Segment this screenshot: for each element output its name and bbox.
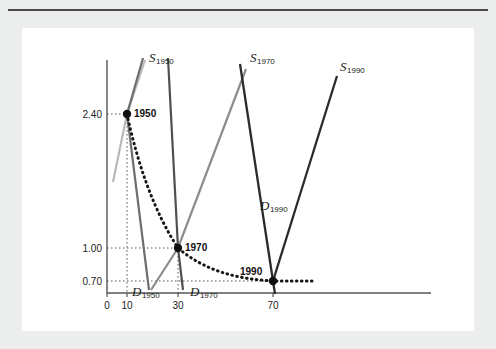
equilibrium-marker-1950 [123,110,131,118]
curve-label-subscript: 1950 [142,291,160,300]
curve-d-1950 [127,58,149,290]
equilibrium-label-1970: 1970 [185,242,207,253]
curve-s-1970 [151,69,246,290]
curve-label-letter: S [250,50,257,65]
equilibrium-marker-1990 [269,277,277,285]
y-tick-label-0.70: 0.70 [70,276,102,287]
y-tick-label-1.00: 1.00 [70,243,102,254]
curve-label-subscript: 1970 [200,291,218,300]
curve-d-1990 [240,64,275,294]
curve-label-d-1990: D1990 [260,198,287,214]
curve-label-subscript: 1970 [257,57,275,66]
equilibrium-marker-1970 [174,244,182,252]
curve-d-1970 [168,58,183,290]
curve-label-d-1950: D1950 [132,284,159,300]
curve-label-letter: D [260,198,269,213]
curve-label-s-1950: S1950 [149,50,173,66]
y-tick-label-2.40: 2.40 [70,109,102,120]
curve-label-subscript: 1990 [270,205,288,214]
curve-label-d-1970: D1970 [190,284,217,300]
x-tick-label-30: 30 [172,300,183,311]
x-tick-label-10: 10 [121,300,132,311]
x-tick-label-70: 70 [267,300,278,311]
curve-s-1990 [273,76,337,281]
curve-label-subscript: 1950 [156,57,174,66]
curve-label-letter: D [132,284,141,299]
x-tick-label-0: 0 [104,300,110,311]
equilibrium-label-1950: 1950 [134,108,156,119]
curve-label-letter: D [190,284,199,299]
figure-container: 2.40 1.00 0.70 0 10 30 70 Quantity (poun… [0,0,496,349]
curve-label-letter: S [340,59,347,74]
top-rule-divider [8,9,488,11]
equilibrium-label-1990: 1990 [240,266,262,277]
curve-label-letter: S [149,50,156,65]
curve-label-s-1970: S1970 [250,50,274,66]
curve-label-subscript: 1990 [347,66,365,75]
curve-label-s-1990: S1990 [340,59,364,75]
chart-plate: 2.40 1.00 0.70 0 10 30 70 Quantity (poun… [22,28,474,331]
